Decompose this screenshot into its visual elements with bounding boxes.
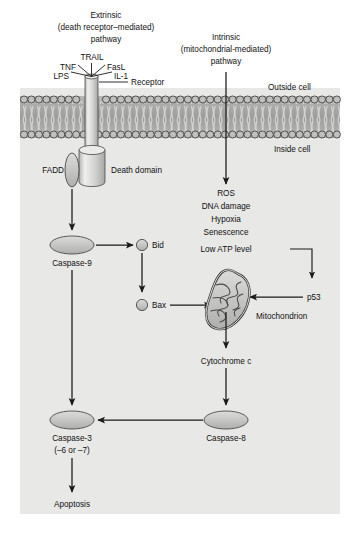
fadd-shape [65, 153, 79, 187]
intrinsic-header-line3: pathway [211, 57, 242, 66]
inside-cell-label: Inside cell [274, 145, 311, 154]
caspase9-shape [50, 236, 94, 254]
fadd-label: FADD [42, 166, 64, 175]
receptor-label: Receptor [131, 78, 164, 87]
bax-label: Bax [152, 301, 166, 310]
stressor-hypoxia: Hypoxia [211, 215, 241, 224]
extrinsic-header-line1: Extrinsic [91, 11, 122, 20]
ligand-label-fasl: FasL [107, 63, 126, 72]
membrane-outer-leaflet-heads [20, 96, 340, 103]
caspase3-label: Caspase-3 [52, 434, 92, 443]
cytochrome-c-label: Cytochrome c [201, 357, 252, 366]
stressor-ros: ROS [217, 189, 235, 198]
ligand-label-trail: TRAIL [80, 53, 104, 62]
caspase3-shape [50, 411, 94, 429]
ligand-label-lps: LPS [54, 72, 70, 81]
caspase9-label: Caspase-9 [52, 259, 92, 268]
bax-shape [136, 299, 147, 310]
ligand-label-il1: IL-1 [114, 72, 129, 81]
extrinsic-header-line3: pathway [91, 35, 122, 44]
stressor-senescence: Senescence [203, 228, 249, 237]
intrinsic-header-line2: (mitochondrial-mediated) [181, 45, 272, 54]
bid-label: Bid [152, 241, 164, 250]
stressor-low-atp: Low ATP level [200, 245, 251, 254]
ligand-label-tnf: TNF [60, 63, 76, 72]
outside-cell-label: Outside cell [268, 83, 311, 92]
apoptosis-label: Apoptosis [54, 500, 90, 509]
membrane-inner-leaflet-heads [20, 131, 340, 138]
plasma-membrane [20, 96, 340, 138]
caspase8-label: Caspase-8 [206, 434, 246, 443]
p53-label: p53 [307, 293, 321, 302]
ligand-stalks [71, 63, 112, 77]
mitochondrion-label: Mitochondrion [256, 312, 308, 321]
caspase3-sublabel: (–6 or –7) [54, 446, 90, 455]
bid-shape [136, 239, 147, 250]
intrinsic-header-line1: Intrinsic [212, 33, 240, 42]
extrinsic-header-line2: (death receptor–mediated) [58, 23, 155, 32]
death-domain-label: Death domain [111, 166, 162, 175]
stressor-dna-damage: DNA damage [202, 202, 251, 211]
apoptosis-pathway-figure: ​ [0, 0, 354, 543]
death-domain-cylinder [79, 145, 105, 186]
caspase8-shape [204, 411, 248, 429]
